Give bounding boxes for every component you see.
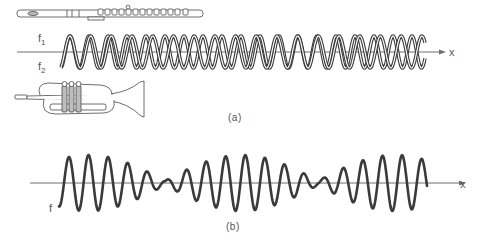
- caption-b: (b): [226, 221, 240, 232]
- axis-arrow-a: [439, 50, 446, 55]
- x-axis-label-a: x: [449, 46, 455, 58]
- beats-figure: f1 f2 x (a): [0, 0, 478, 241]
- f1-label: f1: [38, 32, 46, 47]
- trumpet-icon: [15, 81, 144, 117]
- caption-a: (a): [228, 112, 242, 123]
- f-label: f: [49, 202, 53, 214]
- panel-b: x f (b): [30, 155, 466, 232]
- f2-label: f2: [38, 60, 46, 75]
- x-axis-label-b: x: [460, 178, 466, 190]
- panel-a: f1 f2 x (a): [15, 5, 455, 123]
- flute-icon: [17, 5, 203, 20]
